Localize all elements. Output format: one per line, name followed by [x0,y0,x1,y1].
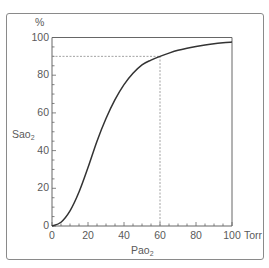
x-axis-title-sub: 2 [150,250,154,257]
y-axis-title-main: Sao [12,128,31,140]
x-tick-label: 0 [37,230,67,241]
y-unit-label: % [35,17,44,28]
dissociation-curve [52,42,232,226]
x-tick-label: 40 [109,230,139,241]
y-tick-label: 80 [19,69,49,80]
x-axis-title-main: Pao [131,244,150,256]
x-tick-label: 20 [73,230,103,241]
x-tick-label: 100 [217,230,247,241]
y-axis-title: Sao2 [12,129,35,141]
y-tick-label: 60 [19,107,49,118]
y-tick-label: 100 [19,32,49,43]
x-unit-label: Torr [244,230,262,241]
y-tick-label: 0 [19,220,49,231]
x-axis-title: Pao2 [131,245,154,257]
x-tick-label: 80 [181,230,211,241]
y-axis-title-sub: 2 [31,134,35,141]
y-tick-label: 40 [19,145,49,156]
x-tick-label: 60 [145,230,175,241]
y-tick-label: 20 [19,182,49,193]
